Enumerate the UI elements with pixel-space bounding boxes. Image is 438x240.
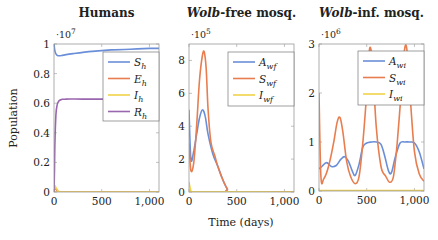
y-tick-label: 6 xyxy=(178,87,185,99)
y-tick-label: 0.8 xyxy=(33,68,50,80)
y-tick-label: 0 xyxy=(43,186,50,198)
y-tick-label: 0.4 xyxy=(33,127,50,139)
axis-exponent: ·107 xyxy=(56,27,76,40)
axis-exponent: ·106 xyxy=(321,27,341,40)
y-tick-label: 1 xyxy=(308,136,315,148)
legend: ShEhIhRh xyxy=(103,52,159,121)
figure: Population Time (days) Humans·10700.20.4… xyxy=(0,0,438,240)
series-a-wi xyxy=(319,142,424,176)
x-tick-label: 0 xyxy=(186,195,193,207)
x-tick-label: 1,000 xyxy=(134,195,164,207)
series-i-h xyxy=(54,186,159,192)
subplot-1: Humans·10700.20.40.60.8105001,000ShEhIhR… xyxy=(33,6,164,207)
y-axis-label: Population xyxy=(7,88,20,147)
subplot-title: Humans xyxy=(78,6,134,20)
subplot-title: Wolb-free mosq. xyxy=(187,6,296,20)
x-tick-label: 1,000 xyxy=(399,194,429,206)
x-tick-label: 500 xyxy=(227,195,247,207)
legend: AwfSwfIwf xyxy=(228,52,294,106)
subplot-3: Wolb-inf. mosq.·106012305001,000AwiSwiIw… xyxy=(308,6,429,206)
legend: AwiSwiIwi xyxy=(358,51,424,105)
y-tick-label: 0.6 xyxy=(33,97,50,109)
x-tick-label: 1,000 xyxy=(269,195,299,207)
y-tick-label: 0.2 xyxy=(33,156,50,168)
series-i-wf xyxy=(185,182,294,192)
subplot-title: Wolb-inf. mosq. xyxy=(319,6,424,20)
y-tick-label: 2 xyxy=(308,87,315,99)
series-a-wf xyxy=(189,110,294,192)
x-tick-label: 500 xyxy=(92,195,112,207)
x-axis-label: Time (days) xyxy=(208,216,273,229)
y-tick-label: 2 xyxy=(178,153,185,165)
y-tick-label: 0 xyxy=(178,186,185,198)
y-tick-label: 3 xyxy=(308,38,315,50)
x-tick-label: 0 xyxy=(51,195,58,207)
x-tick-label: 0 xyxy=(316,194,323,206)
y-tick-label: 4 xyxy=(178,120,185,132)
y-tick-label: 8 xyxy=(178,54,185,66)
subplot-2: Wolb-free mosq.·1050246805001,000AwfSwfI… xyxy=(178,6,299,207)
y-tick-label: 1 xyxy=(43,38,50,50)
axis-exponent: ·105 xyxy=(191,27,211,40)
y-tick-label: 0 xyxy=(308,185,315,197)
x-tick-label: 500 xyxy=(357,194,377,206)
